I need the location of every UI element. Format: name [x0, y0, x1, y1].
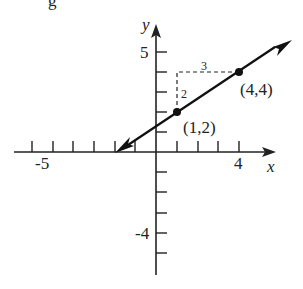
x-tick-label-4: 4 — [234, 154, 243, 173]
run-label: 3 — [201, 59, 207, 73]
coordinate-plane: g -5 4 x 5 -4 y 2 3 — [0, 0, 303, 289]
x-ticks — [32, 141, 239, 152]
y-tick-label-neg4: -4 — [135, 224, 150, 243]
y-axis-label: y — [140, 15, 150, 34]
line-arrow-right-icon — [273, 40, 292, 56]
rise-label: 2 — [181, 87, 187, 101]
line-arrow-left-icon — [115, 137, 134, 153]
point-label-1-2: (1,2) — [183, 118, 216, 137]
x-tick-label-neg5: -5 — [35, 154, 49, 173]
fragment-text: g — [48, 0, 57, 10]
point-label-4-4: (4,4) — [240, 80, 273, 99]
graph-figure: g -5 4 x 5 -4 y 2 3 — [0, 0, 303, 289]
x-axis-label: x — [266, 157, 275, 176]
point-1-2 — [173, 108, 181, 116]
point-4-4 — [235, 68, 243, 76]
y-tick-label-5: 5 — [140, 43, 149, 62]
